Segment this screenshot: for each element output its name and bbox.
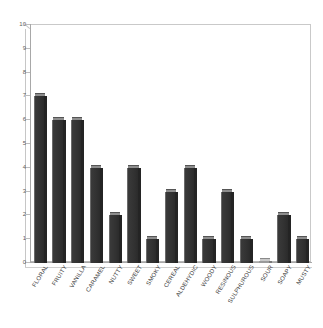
bar-chart: 012345678910 FLORALFRUITYVANILLACARAMELN… <box>0 0 323 328</box>
bar-top-face <box>222 189 232 192</box>
bar-side-face <box>81 120 84 263</box>
y-axis-tick-label: 3 <box>6 188 26 194</box>
bar-slot <box>34 24 45 263</box>
bar-side-face <box>156 239 159 263</box>
bar-side-face <box>119 215 122 263</box>
bar <box>127 168 138 263</box>
bar-slot <box>90 24 101 263</box>
bar-side-face <box>194 168 197 263</box>
bar-top-face <box>91 165 101 168</box>
bar-side-face <box>231 192 234 263</box>
y-axis-tick-label: 9 <box>6 45 26 51</box>
bar-side-face <box>213 239 216 263</box>
x-axis-tick-label-text: FRUITY <box>51 264 68 287</box>
y-axis-tick-label: 1 <box>6 235 26 241</box>
x-axis-labels: FLORALFRUITYVANILLACARAMELNUTTYSWEETSMOK… <box>30 264 311 328</box>
bar-series <box>30 24 311 263</box>
bar-side-face <box>250 239 253 263</box>
x-axis-tick-label-text: NUTTY <box>108 264 124 285</box>
bar-side-face <box>138 168 141 263</box>
y-axis-tick-label: 6 <box>6 116 26 122</box>
y-axis-tick-label: 5 <box>6 140 26 146</box>
bar-side-face <box>306 239 309 263</box>
x-axis-tick-label-text: SOAPY <box>276 264 293 286</box>
bar-slot <box>52 24 63 263</box>
bar <box>221 192 232 263</box>
x-axis-tick-label-text: CARAMEL <box>84 264 105 293</box>
bar-slot <box>184 24 195 263</box>
y-axis-tick-label: 0 <box>6 259 26 265</box>
bar-top-face <box>35 93 45 96</box>
x-axis-tick-label: WOODY <box>200 264 218 288</box>
bar <box>109 215 120 263</box>
bar <box>202 239 213 263</box>
x-axis-tick-label: SOAPY <box>276 264 293 286</box>
bar-side-face <box>175 192 178 263</box>
bar-top-face <box>203 236 213 239</box>
bar-slot <box>202 24 213 263</box>
bar <box>240 239 251 263</box>
x-axis-tick-label: FLORAL <box>31 264 49 288</box>
y-axis-tick-label: 10 <box>6 21 26 27</box>
x-axis-tick-label: SOUR <box>260 264 275 283</box>
x-axis-tick-label-text: CEREAL <box>162 264 180 289</box>
bar <box>165 192 176 263</box>
bar-top-face <box>110 212 120 215</box>
bar-slot <box>259 24 270 263</box>
x-axis-tick-label: CARAMEL <box>84 264 105 293</box>
bar <box>34 96 45 263</box>
bar-side-face <box>269 261 272 264</box>
y-axis-tick-label: 4 <box>6 164 26 170</box>
bar-slot <box>109 24 120 263</box>
bar <box>259 261 270 264</box>
y-axis-tick-label: 2 <box>6 211 26 217</box>
bar-slot <box>221 24 232 263</box>
bar <box>52 120 63 263</box>
bar-top-face <box>72 117 82 120</box>
x-axis-tick-label: NUTTY <box>108 264 124 285</box>
bar-slot <box>71 24 82 263</box>
x-axis-tick-label: CEREAL <box>162 264 180 289</box>
y-axis-tick-label: 8 <box>6 69 26 75</box>
x-axis-tick-label-text: WOODY <box>200 264 218 288</box>
bar-slot <box>277 24 288 263</box>
bar-top-face <box>297 236 307 239</box>
bar-top-face <box>241 236 251 239</box>
y-axis-tick-label: 7 <box>6 92 26 98</box>
x-axis-tick-label: SMOKY <box>145 264 162 286</box>
x-axis-tick-label: VANILLA <box>68 264 87 289</box>
bar-top-face <box>147 236 157 239</box>
bar-top-face <box>260 258 270 261</box>
x-axis-tick-label-text: SOUR <box>260 264 275 283</box>
bar-top-face <box>166 189 176 192</box>
x-axis-tick-label-text: SMOKY <box>145 264 162 286</box>
y-axis: 012345678910 <box>0 0 26 328</box>
x-axis-tick-label-text: FLORAL <box>31 264 49 288</box>
bar-slot <box>127 24 138 263</box>
bar <box>90 168 101 263</box>
bar-slot <box>240 24 251 263</box>
bar-side-face <box>44 96 47 263</box>
bar-slot <box>165 24 176 263</box>
bar-side-face <box>288 215 291 263</box>
x-axis-tick-label-text: VANILLA <box>68 264 87 289</box>
bar <box>277 215 288 263</box>
bar-slot <box>146 24 157 263</box>
bar-top-face <box>278 212 288 215</box>
bar <box>146 239 157 263</box>
bar-top-face <box>53 117 63 120</box>
bar-slot <box>296 24 307 263</box>
x-axis-tick-label: SWEET <box>126 264 143 286</box>
bar-side-face <box>100 168 103 263</box>
x-axis-tick-label: MUSTY <box>295 264 312 286</box>
bar-top-face <box>128 165 138 168</box>
bar <box>184 168 195 263</box>
bar <box>296 239 307 263</box>
bar-top-face <box>185 165 195 168</box>
x-axis-tick-label-text: SWEET <box>126 264 143 286</box>
x-axis-tick-label: FRUITY <box>51 264 68 287</box>
x-axis-tick-label-text: MUSTY <box>295 264 312 286</box>
bar-side-face <box>63 120 66 263</box>
bar <box>71 120 82 263</box>
